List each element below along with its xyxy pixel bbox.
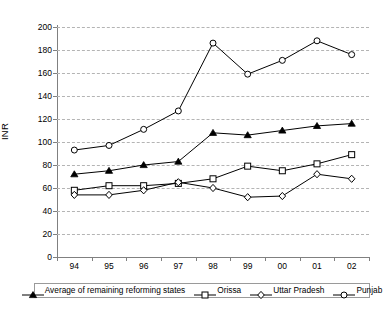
y-tick-label: 160 (10, 69, 52, 78)
x-tick-mark (57, 257, 58, 261)
chart-legend: Average of remaining reforming statesOri… (34, 283, 370, 298)
legend-label: Average of remaining reforming states (45, 286, 186, 294)
y-tick-label: 100 (10, 138, 52, 147)
gridline (57, 165, 369, 166)
legend-marker (22, 286, 44, 296)
legend-marker-icon (250, 290, 272, 300)
legend-marker (333, 286, 355, 296)
x-tick-label: 02 (332, 262, 372, 271)
gridline (57, 188, 369, 189)
plot-area (57, 27, 369, 257)
x-tick-mark (126, 257, 127, 261)
x-tick-mark (161, 257, 162, 261)
gridline (57, 142, 369, 143)
legend-marker (250, 286, 272, 296)
gridline (57, 73, 369, 74)
gridline (57, 27, 369, 28)
legend-marker (194, 286, 216, 296)
gridline (57, 50, 369, 51)
legend-marker-icon (194, 290, 216, 300)
gridline (57, 96, 369, 97)
legend-item[interactable]: Uttar Pradesh (250, 286, 324, 296)
line-chart: INR 020406080100120140160180200 94959697… (0, 0, 391, 311)
legend-item[interactable]: Punjab (333, 286, 382, 296)
x-tick-mark (265, 257, 266, 261)
legend-label: Uttar Pradesh (273, 286, 324, 294)
y-tick-label: 180 (10, 46, 52, 55)
y-tick-label: 40 (10, 207, 52, 216)
legend-marker-icon (333, 290, 355, 300)
x-tick-mark (300, 257, 301, 261)
y-tick-label: 80 (10, 161, 52, 170)
x-tick-mark (369, 257, 370, 261)
y-tick-label: 140 (10, 92, 52, 101)
x-tick-mark (92, 257, 93, 261)
legend-item[interactable]: Average of remaining reforming states (22, 286, 186, 296)
legend-item[interactable]: Orissa (194, 286, 241, 296)
legend-marker-icon (22, 290, 44, 300)
gridline (57, 211, 369, 212)
x-axis-line (57, 257, 370, 258)
y-tick-label: 20 (10, 230, 52, 239)
y-tick-label: 120 (10, 115, 52, 124)
x-tick-mark (196, 257, 197, 261)
gridline (57, 234, 369, 235)
y-axis-title: INR (0, 123, 10, 140)
x-tick-mark (334, 257, 335, 261)
gridline (57, 119, 369, 120)
x-tick-mark (230, 257, 231, 261)
y-tick-label: 200 (10, 23, 52, 32)
legend-label: Orissa (217, 286, 241, 294)
y-tick-label: 60 (10, 184, 52, 193)
y-tick-label: 0 (10, 253, 52, 262)
legend-label: Punjab (356, 286, 382, 294)
